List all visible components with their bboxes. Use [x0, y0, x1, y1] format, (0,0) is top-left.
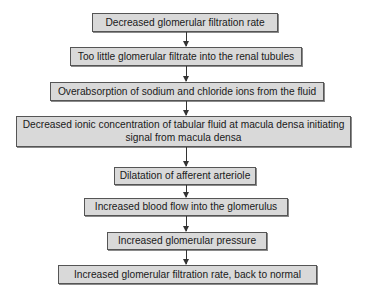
step-label: Increased glomerular pressure: [118, 235, 256, 247]
step-label: Increased glomerular filtration rate, ba…: [74, 269, 301, 281]
step-label: Increased blood flow into the glomerulus: [95, 201, 277, 213]
step-gfr-back-to-normal: Increased glomerular filtration rate, ba…: [58, 265, 317, 284]
step-label: Dilatation of afferent arteriole: [120, 170, 251, 182]
arrow-down-icon: [186, 66, 187, 81]
step-label: Too little glomerular filtrate into the …: [78, 51, 294, 63]
arrow-down-icon: [186, 101, 187, 115]
step-label: Decreased ionic concentration of tabular…: [21, 119, 346, 144]
step-afferent-dilatation: Dilatation of afferent arteriole: [114, 167, 256, 185]
arrow-down-icon: [186, 147, 187, 166]
step-macula-densa-signal: Decreased ionic concentration of tabular…: [16, 116, 351, 147]
step-label: Overabsorption of sodium and chloride io…: [58, 86, 316, 98]
step-decreased-gfr: Decreased glomerular filtration rate: [92, 13, 278, 32]
arrow-down-icon: [186, 32, 187, 46]
step-label: Decreased glomerular filtration rate: [105, 17, 264, 29]
step-increased-glomerular-pressure: Increased glomerular pressure: [107, 232, 267, 250]
step-too-little-filtrate: Too little glomerular filtrate into the …: [70, 47, 302, 66]
arrow-down-icon: [186, 185, 187, 197]
step-increased-blood-flow: Increased blood flow into the glomerulus: [84, 198, 288, 216]
arrow-down-icon: [186, 250, 187, 264]
arrow-down-icon: [186, 216, 187, 231]
step-overabsorption: Overabsorption of sodium and chloride io…: [50, 82, 324, 101]
